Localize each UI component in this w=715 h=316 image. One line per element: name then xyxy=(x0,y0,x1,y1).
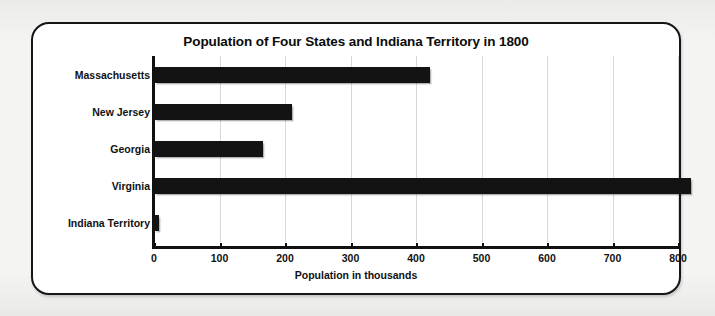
category-labels: MassachusettsNew JerseyGeorgiaVirginiaIn… xyxy=(38,56,150,242)
x-axis-tick xyxy=(285,243,287,249)
x-axis-line xyxy=(152,246,679,249)
x-axis-tick xyxy=(678,243,680,249)
x-axis-tick xyxy=(547,243,549,249)
gridline xyxy=(285,56,286,242)
bar xyxy=(154,141,263,157)
x-tick-label: 200 xyxy=(276,252,294,264)
gridline xyxy=(678,56,679,242)
x-axis-tick xyxy=(416,243,418,249)
gridline xyxy=(351,56,352,242)
category-label: Georgia xyxy=(40,143,150,155)
x-tick-label: 800 xyxy=(669,252,687,264)
x-axis-tick xyxy=(351,243,353,249)
gridline xyxy=(416,56,417,242)
gridline xyxy=(547,56,548,242)
x-tick-labels: 0100200300400500600700800 xyxy=(154,252,678,268)
category-label: Massachusetts xyxy=(40,69,150,81)
chart-card: Population of Four States and Indiana Te… xyxy=(31,22,681,295)
x-tick-label: 300 xyxy=(342,252,360,264)
category-label: Virginia xyxy=(40,180,150,192)
x-tick-label: 700 xyxy=(604,252,622,264)
bar xyxy=(154,104,292,120)
category-label: Indiana Territory xyxy=(40,217,150,229)
category-label: New Jersey xyxy=(40,106,150,118)
x-tick-label: 400 xyxy=(407,252,425,264)
bar xyxy=(154,178,691,194)
x-tick-label: 500 xyxy=(473,252,491,264)
plot-area xyxy=(154,56,678,242)
gridline xyxy=(613,56,614,242)
y-axis-line xyxy=(152,56,155,246)
gridline xyxy=(482,56,483,242)
x-axis-tick xyxy=(220,243,222,249)
x-axis-tick xyxy=(613,243,615,249)
bar xyxy=(154,67,430,83)
x-tick-label: 600 xyxy=(538,252,556,264)
x-axis-tick xyxy=(154,243,156,249)
x-tick-label: 0 xyxy=(151,252,157,264)
x-tick-label: 100 xyxy=(211,252,229,264)
x-axis-title: Population in thousands xyxy=(33,269,679,281)
chart-title: Population of Four States and Indiana Te… xyxy=(33,34,679,49)
x-axis-tick xyxy=(482,243,484,249)
